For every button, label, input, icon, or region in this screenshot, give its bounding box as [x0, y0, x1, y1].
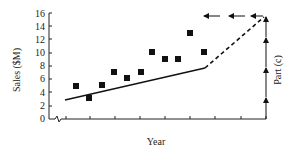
data-point	[201, 49, 207, 55]
y-tick-16: 16	[35, 8, 45, 19]
x-axis-label: Year	[147, 136, 166, 147]
y-axis	[49, 13, 52, 119]
data-point	[175, 56, 181, 62]
y-tick-4: 4	[40, 87, 45, 98]
y-tick-14: 14	[35, 21, 45, 32]
x-axis	[49, 116, 266, 122]
data-point	[149, 49, 155, 55]
axis-break-icon	[49, 116, 266, 122]
data-point	[99, 82, 105, 88]
y-tick-0: 0	[40, 113, 45, 124]
data-points	[73, 30, 207, 101]
data-point	[187, 30, 193, 36]
y-tick-12: 12	[35, 34, 45, 45]
data-point	[124, 75, 130, 81]
part-c-label: Part (c)	[272, 55, 284, 85]
y-tick-8: 8	[40, 60, 45, 71]
y-tick-labels: 0 2 4 6 8 10 12 14 16	[35, 8, 45, 124]
y-axis-label: Sales ($M)	[11, 48, 23, 92]
data-point	[73, 83, 79, 89]
sales-trend-chart: Sales ($M) 0 2 4 6 8 10 12 14 16	[0, 0, 295, 154]
data-point	[111, 69, 117, 75]
data-point	[162, 56, 168, 62]
data-point	[86, 95, 92, 101]
y-tick-6: 6	[40, 73, 45, 84]
trend-line-extrapolated	[205, 17, 264, 68]
y-tick-2: 2	[40, 100, 45, 111]
data-point	[138, 69, 144, 75]
y-tick-10: 10	[35, 47, 45, 58]
